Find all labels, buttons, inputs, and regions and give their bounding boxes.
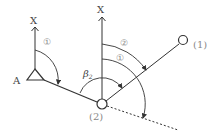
angle-label-right-2: ② (120, 38, 128, 48)
line-extension-dashed (107, 106, 178, 130)
beta-angle-arc (80, 78, 122, 93)
azimuth-arc-1 (102, 59, 145, 118)
traverse-diagram: X ① A X ② ① β2 (2) (1) (0, 0, 220, 135)
axis-label-left: X (30, 15, 38, 26)
angle-label-left-1: ① (43, 37, 51, 47)
station-1-label: (1) (193, 39, 207, 50)
control-point-a-triangle (27, 69, 44, 80)
axis-label-right: X (97, 4, 105, 15)
line-a-to-2 (44, 80, 97, 102)
point-a-label: A (12, 75, 21, 86)
station-2-label: (2) (89, 111, 103, 122)
station-2-marker (97, 99, 107, 109)
beta-label: β2 (82, 68, 93, 80)
angle-label-right-1: ① (116, 53, 124, 63)
beta-subscript: 2 (88, 73, 93, 80)
station-1-marker (179, 36, 188, 45)
